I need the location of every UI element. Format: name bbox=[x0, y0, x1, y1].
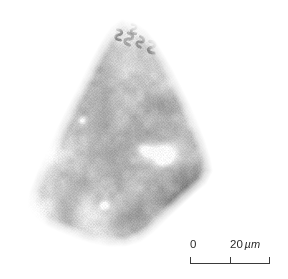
scale-bar-end-value: 20 bbox=[230, 238, 243, 250]
scale-bar-ruler bbox=[190, 257, 270, 266]
scale-bar-tick-start bbox=[190, 257, 191, 264]
scale-bar: 0 20µm bbox=[190, 238, 276, 272]
scale-bar-unit: µm bbox=[243, 238, 260, 250]
scale-bar-start-label: 0 bbox=[190, 238, 197, 251]
scale-bar-labels: 0 20µm bbox=[190, 238, 276, 253]
scale-bar-end-label: 20µm bbox=[230, 238, 260, 251]
scale-bar-tick-end bbox=[269, 257, 270, 264]
micrograph-figure: 0 20µm Wedge-shaped siliceous specimen w… bbox=[0, 0, 288, 279]
scale-bar-tick-middle bbox=[230, 257, 231, 264]
